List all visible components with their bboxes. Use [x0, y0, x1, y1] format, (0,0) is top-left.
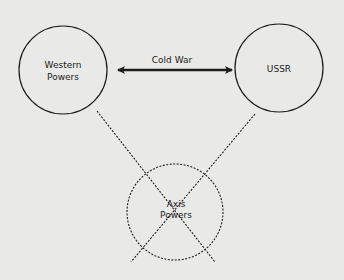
western-axis-line	[97, 111, 215, 262]
western-label-2: Powers	[47, 72, 79, 82]
ussr-label: USSR	[267, 64, 291, 74]
axis-label-2: Powers	[160, 210, 192, 220]
dashed-edges	[97, 111, 255, 262]
ussr-axis-line	[131, 114, 255, 262]
axis-label-1: Axis	[167, 199, 186, 209]
cold-war-label: Cold War	[152, 55, 193, 65]
axis-powers-node: Axis Powers	[127, 164, 223, 260]
cold-war-edge: Cold War	[118, 55, 232, 70]
western-label-1: Western	[45, 60, 82, 70]
diagram-canvas: Western Powers USSR Cold War Axis Powers	[0, 0, 344, 280]
western-powers-node: Western Powers	[19, 26, 107, 114]
ussr-node: USSR	[235, 24, 323, 112]
